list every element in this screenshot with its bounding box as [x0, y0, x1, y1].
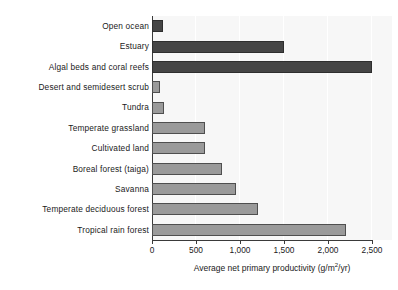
category-label: Temperate grassland: [68, 118, 149, 138]
x-tick-label: 0: [150, 245, 155, 255]
x-tick-label: 500: [189, 245, 203, 255]
bar: [152, 163, 222, 175]
value-axis-line: [152, 240, 373, 241]
category-label: Savanna: [115, 179, 149, 199]
bar-row: Tundra: [0, 97, 398, 117]
bar: [152, 41, 284, 53]
bar: [152, 142, 205, 154]
bar: [152, 81, 160, 93]
bar: [152, 203, 258, 215]
category-label: Boreal forest (taiga): [73, 159, 149, 179]
x-tick-mark: [196, 240, 197, 244]
x-tick-mark: [152, 240, 153, 244]
category-label: Estuary: [120, 36, 149, 56]
x-tick-label: 1,000: [230, 245, 251, 255]
bar: [152, 20, 163, 32]
category-label: Algal beds and coral reefs: [49, 57, 149, 77]
x-axis-title: Average net primary productivity (g/m2/y…: [152, 263, 392, 273]
x-tick-mark: [240, 240, 241, 244]
x-tick-label: 2,500: [362, 245, 383, 255]
category-label: Desert and semidesert scrub: [38, 77, 149, 97]
category-label: Open ocean: [102, 16, 149, 36]
bar-row: Temperate deciduous forest: [0, 199, 398, 219]
bar-row: Boreal forest (taiga): [0, 159, 398, 179]
bar-row: Savanna: [0, 179, 398, 199]
bar: [152, 224, 346, 236]
bar-row: Cultivated land: [0, 138, 398, 158]
bar-row: Algal beds and coral reefs: [0, 57, 398, 77]
x-tick-label: 1,500: [274, 245, 295, 255]
category-label: Tundra: [122, 97, 149, 117]
x-tick-mark: [284, 240, 285, 244]
bar-row: Tropical rain forest: [0, 220, 398, 240]
bar: [152, 61, 372, 73]
category-label: Cultivated land: [92, 138, 149, 158]
bar-row: Open ocean: [0, 16, 398, 36]
x-axis-title-prefix: Average net primary productivity (g/m: [194, 263, 335, 273]
bar: [152, 122, 205, 134]
category-label: Temperate deciduous forest: [42, 199, 149, 219]
bar-row: Estuary: [0, 36, 398, 56]
x-axis-title-suffix: /yr): [338, 263, 350, 273]
bar: [152, 102, 164, 114]
bar-chart: Open oceanEstuaryAlgal beds and coral re…: [0, 0, 398, 290]
x-tick-mark: [328, 240, 329, 244]
x-tick-mark: [372, 240, 373, 244]
bar-row: Desert and semidesert scrub: [0, 77, 398, 97]
bar: [152, 183, 236, 195]
category-label: Tropical rain forest: [77, 220, 149, 240]
x-tick-label: 2,000: [318, 245, 339, 255]
bar-row: Temperate grassland: [0, 118, 398, 138]
